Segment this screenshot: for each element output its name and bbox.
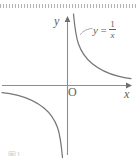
hyperbola-figure: y x O y = 1 x 图1 xyxy=(0,0,136,161)
x-axis-label: x xyxy=(124,88,129,100)
fraction-denominator: x xyxy=(110,30,116,40)
caption-fragment: 图1 xyxy=(8,150,21,156)
y-axis-arrow-icon xyxy=(65,16,71,22)
hyperbola-branch-quadrant-3 xyxy=(2,93,63,158)
equation-leader-line xyxy=(81,29,93,35)
y-axis-label: y xyxy=(54,15,59,27)
equation-relation: = xyxy=(100,25,106,36)
equation-lhs: y xyxy=(93,25,98,36)
equation-label: y = 1 x xyxy=(93,20,116,40)
fraction-one-over-x: 1 x xyxy=(109,20,116,40)
origin-label: O xyxy=(68,86,77,98)
fraction-numerator: 1 xyxy=(109,20,116,30)
